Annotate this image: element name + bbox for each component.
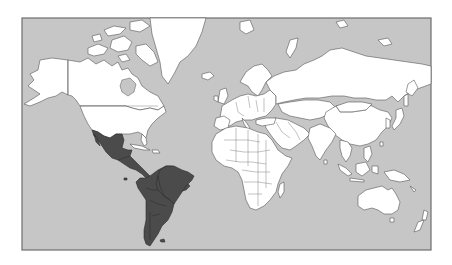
galapagos [124, 178, 127, 180]
taiwan [380, 142, 383, 146]
world-map [0, 0, 452, 265]
sri-lanka [324, 160, 327, 164]
korea [386, 118, 390, 128]
sakhalin [404, 94, 408, 106]
tasmania [390, 218, 394, 222]
